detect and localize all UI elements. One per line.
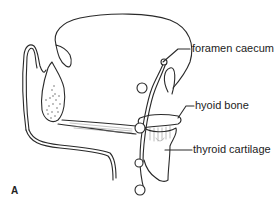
tongue-outline [55, 14, 192, 88]
thyroid-cartilage-outline [144, 128, 176, 181]
nodule-mid [135, 159, 143, 167]
gland-stipple [45, 85, 60, 118]
label-hyoid-bone: hyoid bone [195, 100, 249, 111]
soft-palate-outline [56, 45, 71, 67]
nodule-hyoid [135, 123, 145, 133]
nodule-low [135, 185, 145, 195]
epiglottis-outline [164, 68, 174, 94]
leader-foramen-caecum [163, 49, 190, 62]
panel-label: A [11, 186, 18, 196]
cartilage-notch [156, 138, 164, 141]
leader-hyoid-bone [178, 106, 194, 118]
duct-path-parallel [143, 63, 166, 162]
muscle-band-top [62, 120, 136, 126]
label-foramen-caecum: foramen caecum [192, 43, 274, 54]
esophagus-outer-line [26, 130, 113, 180]
nodule-upper [137, 83, 147, 93]
label-thyroid-cartilage: thyroid cartilage [193, 144, 271, 155]
hyoid-shading [150, 126, 170, 141]
pharynx-inner-line [26, 48, 37, 130]
